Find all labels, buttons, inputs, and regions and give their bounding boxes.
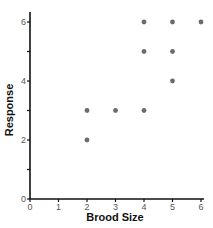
y-tick-label: 4 (21, 76, 26, 86)
data-point (85, 108, 90, 113)
data-point (170, 79, 175, 84)
y-axis-title: Response (3, 84, 15, 137)
data-point (170, 20, 175, 25)
data-point (142, 49, 147, 54)
data-point (199, 20, 204, 25)
x-axis-title: Brood Size (86, 211, 143, 223)
data-point (170, 49, 175, 54)
scatter-chart: 01234560246 Brood Size Response (0, 0, 213, 228)
y-tick-label: 2 (21, 135, 26, 145)
y-tick-label: 0 (21, 194, 26, 204)
x-tick-label: 0 (27, 202, 32, 212)
x-tick-label: 5 (170, 202, 175, 212)
data-point (85, 138, 90, 143)
x-tick-label: 1 (56, 202, 61, 212)
data-point (142, 108, 147, 113)
axes: 01234560246 (21, 12, 204, 212)
data-point (142, 20, 147, 25)
x-tick-label: 6 (198, 202, 203, 212)
y-tick-label: 6 (21, 17, 26, 27)
data-point (113, 108, 118, 113)
data-points (85, 20, 204, 143)
